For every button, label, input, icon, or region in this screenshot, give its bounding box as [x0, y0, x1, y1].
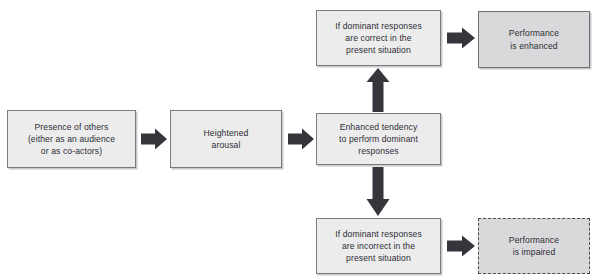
text-line: are incorrect in the [321, 240, 436, 252]
node-performance-impaired-label: Performance is impaired [483, 234, 585, 258]
text-line: Presence of others [12, 121, 131, 133]
arrow-correct-to-enhanced [447, 27, 475, 49]
text-line: present situation [321, 44, 436, 56]
text-line: If dominant responses [321, 20, 436, 32]
text-line: If dominant responses [321, 228, 436, 240]
node-presence-of-others: Presence of others (either as an audienc… [7, 110, 136, 168]
text-line: Performance [483, 27, 585, 39]
text-line: responses [321, 145, 436, 157]
arrow-arousal-to-tendency [288, 128, 314, 150]
arrow-tendency-to-correct [366, 68, 390, 112]
flowchart-canvas: Presence of others (either as an audienc… [0, 0, 600, 279]
node-enhanced-tendency: Enhanced tendency to perform dominant re… [316, 113, 441, 165]
text-line: to perform dominant [321, 133, 436, 145]
node-dominant-incorrect-label: If dominant responses are incorrect in t… [321, 228, 436, 265]
node-heightened-arousal-label: Heightened arousal [175, 127, 277, 151]
node-enhanced-tendency-label: Enhanced tendency to perform dominant re… [321, 121, 436, 158]
node-dominant-correct: If dominant responses are correct in the… [316, 10, 441, 66]
text-line: is impaired [483, 246, 585, 258]
node-dominant-correct-label: If dominant responses are correct in the… [321, 20, 436, 57]
text-line: (either as an audience [12, 133, 131, 145]
text-line: Enhanced tendency [321, 121, 436, 133]
text-line: are correct in the [321, 32, 436, 44]
text-line: Heightened [175, 127, 277, 139]
node-presence-of-others-label: Presence of others (either as an audienc… [12, 121, 131, 158]
text-line: or as co-actors) [12, 145, 131, 157]
arrow-tendency-to-incorrect [366, 167, 390, 216]
text-line: is enhanced [483, 40, 585, 52]
text-line: arousal [175, 139, 277, 151]
node-performance-enhanced-label: Performance is enhanced [483, 27, 585, 51]
node-performance-enhanced: Performance is enhanced [478, 11, 590, 68]
node-heightened-arousal: Heightened arousal [170, 110, 282, 168]
node-dominant-incorrect: If dominant responses are incorrect in t… [316, 218, 441, 274]
arrow-presence-to-arousal [141, 128, 167, 150]
text-line: Performance [483, 234, 585, 246]
node-performance-impaired: Performance is impaired [478, 218, 590, 274]
arrow-incorrect-to-impaired [447, 235, 475, 257]
text-line: present situation [321, 252, 436, 264]
